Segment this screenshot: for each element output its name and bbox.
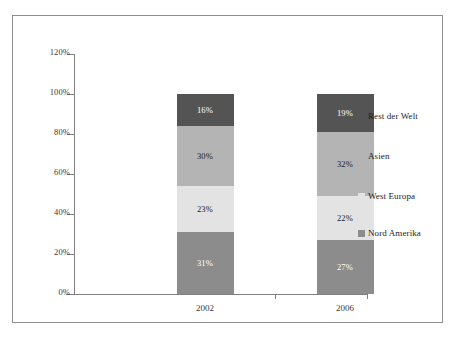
legend-label: Nord Amerika [368, 228, 421, 238]
bar-segment-value-label: 19% [337, 109, 353, 118]
stacked-bar[interactable]: 16%30%23%31% [177, 94, 234, 294]
x-axis-line [66, 294, 368, 295]
legend-color-swatch [358, 193, 365, 200]
y-axis-tick-label: 0% [58, 287, 70, 297]
x-axis-tick-mark [275, 294, 276, 299]
legend-color-swatch [358, 113, 365, 120]
legend-item[interactable]: Asien [358, 151, 390, 161]
legend-item[interactable]: Nord Amerika [358, 228, 421, 238]
bar-segment-value-label: 22% [337, 214, 353, 223]
legend-label: West Europa [368, 191, 415, 201]
bar-segment-value-label: 31% [197, 259, 213, 268]
bar-segment[interactable]: 30% [177, 126, 234, 186]
legend-color-swatch [358, 153, 365, 160]
y-axis-tick-label: 60% [54, 167, 70, 177]
plot-area: 0%20%40%60%80%100%120% 20022006 16%30%23… [74, 31, 374, 295]
y-axis-line [74, 54, 75, 295]
legend-label: Asien [368, 151, 390, 161]
x-axis-label: 2002 [175, 303, 235, 313]
chart-frame: 0%20%40%60%80%100%120% 20022006 16%30%23… [12, 15, 443, 323]
y-axis-tick-label: 20% [54, 247, 70, 257]
legend-color-swatch [358, 230, 365, 237]
legend-item[interactable]: Rest der Welt [358, 111, 418, 121]
bar-segment-value-label: 16% [197, 106, 213, 115]
x-axis-label: 2006 [315, 303, 375, 313]
y-axis-tick-label: 40% [54, 207, 70, 217]
bar-segment[interactable]: 31% [177, 232, 234, 294]
bar-segment-value-label: 30% [197, 152, 213, 161]
bar-segment[interactable]: 27% [317, 240, 374, 294]
bar-segment[interactable]: 16% [177, 94, 234, 126]
y-axis-tick-label: 80% [54, 127, 70, 137]
y-axis-tick-label: 120% [50, 47, 70, 57]
y-axis-tick-label: 100% [50, 87, 70, 97]
bar-segment-value-label: 23% [197, 205, 213, 214]
bar-segment[interactable]: 23% [177, 186, 234, 232]
bar-segment[interactable]: 32% [317, 132, 374, 196]
legend-label: Rest der Welt [368, 111, 418, 121]
bar-segment-value-label: 27% [337, 263, 353, 272]
legend-item[interactable]: West Europa [358, 191, 415, 201]
bar-segment-value-label: 32% [337, 160, 353, 169]
x-axis-tick-mark [367, 294, 368, 299]
